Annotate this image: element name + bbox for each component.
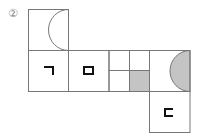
face-bottom (150, 92, 191, 133)
half-circle-outline-icon (49, 10, 69, 51)
face-center-quadrants (109, 51, 150, 92)
face-center-left (69, 51, 110, 92)
giyeok-glyph-icon (44, 67, 53, 75)
digeut-glyph-icon (165, 109, 173, 116)
face-top (29, 10, 69, 51)
face-left (29, 51, 69, 92)
shaded-half-circle-icon (170, 51, 190, 92)
face-right (150, 51, 191, 92)
shaded-quadrant (130, 71, 150, 92)
mieum-glyph-icon (84, 67, 93, 74)
cube-net-diagram (0, 0, 198, 136)
